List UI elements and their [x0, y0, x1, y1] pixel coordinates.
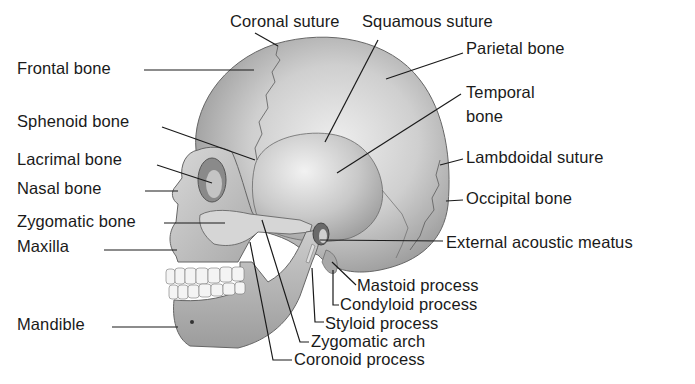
label-lacrimal-bone: Lacrimal bone — [17, 150, 122, 169]
label-parietal-bone: Parietal bone — [466, 39, 565, 58]
label-temporal-bone: Temporal — [466, 83, 535, 102]
teeth — [166, 267, 245, 299]
label-lambdoidal-suture: Lambdoidal suture — [466, 148, 603, 167]
label-sphenoid-bone: Sphenoid bone — [17, 112, 129, 131]
label-zygomatic-arch: Zygomatic arch — [311, 332, 425, 351]
label-temporal-bone-2: bone — [466, 107, 503, 126]
label-coronal-suture: Coronal suture — [230, 12, 340, 31]
leader-styloid-process — [312, 268, 324, 322]
label-mandible: Mandible — [17, 315, 85, 334]
label-condyloid-process: Condyloid process — [340, 295, 477, 314]
orbit-inner — [206, 170, 222, 198]
label-styloid-process: Styloid process — [325, 314, 438, 333]
label-coronoid-process: Coronoid process — [294, 350, 425, 369]
label-mastoid-process: Mastoid process — [357, 276, 479, 295]
label-frontal-bone: Frontal bone — [17, 59, 111, 78]
skull-diagram: Coronal sutureSquamous sutureParietal bo… — [0, 0, 695, 384]
ear-canal-inner — [319, 229, 327, 243]
leader-coronal-suture — [255, 33, 278, 46]
label-external-acoustic-meatus: External acoustic meatus — [446, 233, 633, 252]
label-zygomatic-bone: Zygomatic bone — [17, 212, 136, 231]
label-maxilla: Maxilla — [17, 237, 69, 256]
label-squamous-suture: Squamous suture — [362, 12, 493, 31]
leader-condyloid-process — [333, 270, 339, 305]
label-nasal-bone: Nasal bone — [17, 179, 101, 198]
mental-foramen — [190, 320, 194, 324]
label-occipital-bone: Occipital bone — [466, 189, 572, 208]
